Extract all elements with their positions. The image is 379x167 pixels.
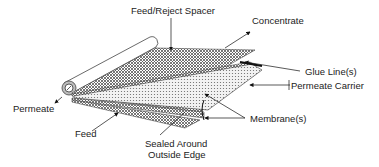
label-feed: Feed [75, 128, 97, 139]
spiral-membrane-diagram: Feed/Reject Spacer Concentrate Glue Line… [0, 0, 379, 167]
label-feed-reject-spacer: Feed/Reject Spacer [131, 5, 215, 16]
label-glue-lines: Glue Line(s) [305, 66, 357, 77]
label-permeate-carrier: Permeate Carrier [291, 80, 364, 91]
label-sealed-line2: Outside Edge [148, 149, 206, 160]
label-membranes: Membrane(s) [250, 113, 307, 124]
label-sealed-line1: Sealed Around [145, 138, 207, 149]
label-permeate: Permeate [13, 103, 54, 114]
label-concentrate: Concentrate [252, 15, 304, 26]
